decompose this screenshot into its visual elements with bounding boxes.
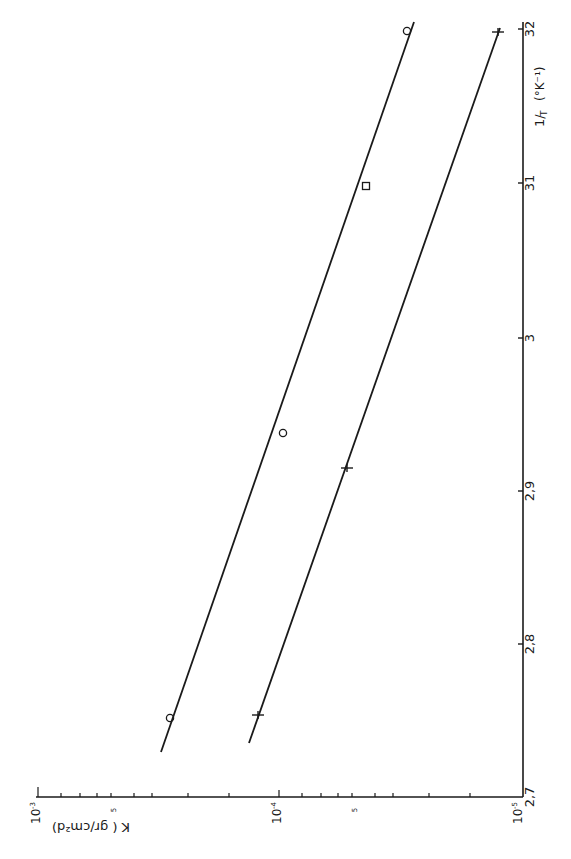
x-tick-labels: 2,7 2,8 2,9 3 31 32 [522, 21, 537, 808]
y-axis-ticks [38, 787, 470, 797]
svg-text:T: T [539, 110, 549, 117]
x-axis-label: 1/ T (°K⁻¹) [532, 67, 549, 127]
svg-text:10: 10 [29, 809, 43, 824]
x-tick-2-8: 2,8 [522, 634, 537, 655]
x-tick-3-0: 3 [522, 334, 537, 342]
chart: 2,7 2,8 2,9 3 31 32 1/ T (°K⁻¹) 10 -3 5 … [0, 0, 571, 859]
svg-text:-4: -4 [270, 801, 278, 809]
circle-marker [403, 27, 410, 34]
plus-marker [492, 28, 504, 36]
svg-text:-5: -5 [511, 802, 519, 809]
svg-text:10: 10 [270, 809, 284, 824]
svg-text:10: 10 [511, 809, 525, 824]
x-tick-2-7: 2,7 [522, 787, 537, 808]
square-marker [363, 183, 370, 190]
y-axis-label: K ( gr/cm²d) [52, 820, 130, 835]
circle-marker [279, 429, 286, 436]
x-tick-3-2: 32 [522, 21, 537, 38]
svg-text:(°K⁻¹): (°K⁻¹) [533, 67, 547, 101]
upper-fit-line [161, 22, 414, 752]
x-tick-2-9: 2,9 [522, 481, 537, 502]
svg-text:5: 5 [351, 808, 359, 812]
plus-marker [341, 464, 353, 472]
plus-marker [252, 711, 264, 719]
svg-text:-3: -3 [29, 802, 37, 809]
upper-series-markers [166, 27, 410, 721]
svg-text:5: 5 [110, 808, 118, 812]
x-tick-3-1: 31 [522, 175, 537, 192]
